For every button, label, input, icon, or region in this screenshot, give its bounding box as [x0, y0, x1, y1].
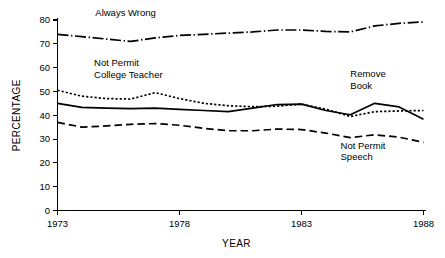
series-line-always-wrong	[58, 22, 424, 42]
chart-figure: 010203040506070801973197819831988YEARPER…	[0, 0, 445, 258]
y-tick-label: 20	[39, 157, 50, 168]
x-tick-label: 1978	[169, 218, 190, 229]
y-tick-label: 10	[39, 181, 50, 192]
y-tick-label: 80	[39, 14, 50, 25]
annotation-not-permit-college-teacher: Not PermitCollege Teacher	[94, 57, 162, 80]
annotation-label-line: Book	[350, 80, 372, 91]
annotation-remove-book: RemoveBook	[350, 68, 385, 91]
y-tick-label: 50	[39, 86, 50, 97]
y-tick-label: 60	[39, 62, 50, 73]
axis-spines	[58, 18, 426, 211]
y-tick-label: 40	[39, 110, 50, 121]
annotation-label-line: Not Permit	[341, 140, 386, 151]
chart-annotations: Always WrongNot PermitCollege TeacherRem…	[94, 7, 386, 162]
annotation-not-permit-speech: Not PermitSpeech	[341, 140, 386, 163]
annotation-always-wrong: Always Wrong	[95, 7, 156, 18]
y-tick-label: 70	[39, 38, 50, 49]
annotation-label-line: Speech	[341, 151, 373, 162]
annotation-label-line: College Teacher	[94, 69, 162, 80]
y-axis-title: PERCENTAGE	[11, 79, 22, 151]
x-tick-label: 1988	[413, 218, 434, 229]
chart-axes: 010203040506070801973197819831988YEARPER…	[11, 14, 434, 248]
x-tick-label: 1983	[291, 218, 312, 229]
y-tick-label: 0	[45, 205, 50, 216]
y-tick-label: 30	[39, 133, 50, 144]
x-tick-label: 1973	[47, 218, 68, 229]
annotation-label-line: Not Permit	[94, 57, 139, 68]
annotation-label-line: Always Wrong	[95, 7, 156, 18]
line-chart: 010203040506070801973197819831988YEARPER…	[0, 0, 445, 258]
x-axis-title: YEAR	[222, 238, 251, 249]
annotation-label-line: Remove	[350, 68, 385, 79]
series-line-not-permit-college-teacher	[58, 90, 424, 116]
